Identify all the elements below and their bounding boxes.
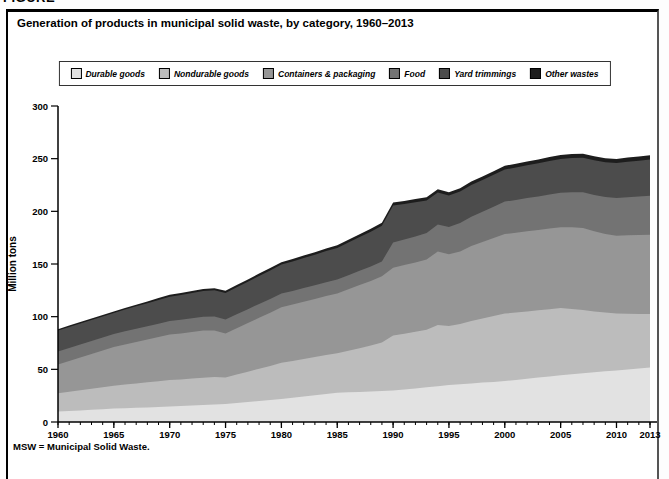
x-tick-label: 1975 (215, 429, 237, 440)
x-tick-label: 1995 (438, 429, 460, 440)
x-ticks: 1960196519701975198019851990199520002005… (47, 422, 660, 440)
x-tick-label: 2000 (494, 429, 515, 440)
x-tick-label: 1985 (327, 429, 349, 440)
x-tick-label: 2005 (550, 429, 572, 440)
x-tick-label: 1990 (383, 429, 404, 440)
x-tick-label: 2013 (639, 429, 660, 440)
x-tick-label: 1980 (271, 429, 292, 440)
x-tick-label: 1960 (47, 429, 68, 440)
series-areas (58, 154, 650, 422)
y-tick-label: 0 (43, 417, 48, 428)
y-tick-label: 100 (32, 311, 48, 322)
x-tick-label: 1965 (103, 429, 125, 440)
y-tick-label: 300 (32, 101, 48, 112)
y-tick-label: 250 (32, 153, 48, 164)
y-ticks: 050100150200250300 (32, 101, 58, 428)
footnote: MSW = Municipal Solid Waste. (13, 441, 150, 452)
x-tick-label: 2010 (606, 429, 627, 440)
y-tick-label: 50 (37, 364, 48, 375)
x-tick-label: 1970 (159, 429, 180, 440)
y-tick-label: 150 (32, 259, 48, 270)
y-tick-label: 200 (32, 206, 48, 217)
y-axis-title: Million tons (7, 236, 18, 292)
